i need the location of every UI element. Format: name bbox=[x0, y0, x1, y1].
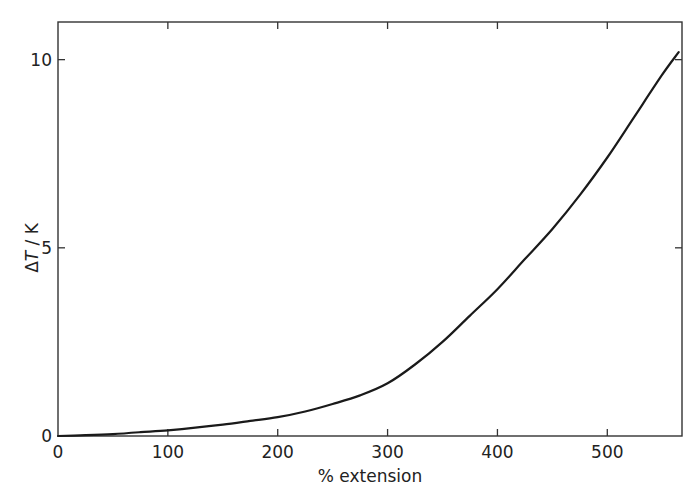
x-tick-label: 500 bbox=[591, 442, 623, 462]
x-axis-title: % extension bbox=[318, 466, 422, 486]
y-tick-label: 0 bbox=[41, 426, 52, 446]
data-curve bbox=[58, 52, 679, 436]
chart: 0100200300400500 0510 % extension ΔT / K bbox=[0, 0, 700, 499]
y-tick-label: 5 bbox=[41, 238, 52, 258]
x-tick-label: 400 bbox=[481, 442, 513, 462]
x-tick-label: 0 bbox=[53, 442, 64, 462]
x-tick-label: 200 bbox=[261, 442, 293, 462]
x-axis-ticks: 0100200300400500 bbox=[53, 22, 624, 462]
y-tick-label: 10 bbox=[30, 50, 52, 70]
x-tick-label: 100 bbox=[152, 442, 184, 462]
y-axis-ticks: 0510 bbox=[30, 50, 682, 446]
y-axis-title: ΔT / K bbox=[22, 222, 42, 273]
plot-border bbox=[58, 22, 682, 436]
plot-frame bbox=[58, 22, 682, 436]
x-tick-label: 300 bbox=[371, 442, 403, 462]
